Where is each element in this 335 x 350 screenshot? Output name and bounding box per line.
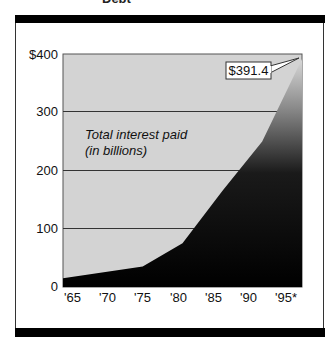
- chart-annotation-line1: Total interest paid: [85, 127, 188, 142]
- svg-text:'85: '85: [205, 290, 222, 305]
- svg-text:'75: '75: [134, 290, 151, 305]
- svg-text:200: 200: [36, 163, 58, 178]
- chart-annotation-line2: (in billions): [85, 143, 147, 158]
- svg-text:$400: $400: [29, 47, 58, 62]
- svg-text:'90: '90: [240, 290, 257, 305]
- svg-text:'80: '80: [170, 290, 187, 305]
- svg-text:0: 0: [51, 279, 58, 294]
- svg-text:'95*: '95*: [275, 290, 297, 305]
- svg-text:300: 300: [36, 104, 58, 119]
- svg-text:100: 100: [36, 221, 58, 236]
- svg-text:'70: '70: [99, 290, 116, 305]
- area-chart: $400 300 200 100 0 '65 '70 '75 '80 '85 '…: [0, 0, 335, 350]
- x-axis-labels: '65 '70 '75 '80 '85 '90 '95*: [64, 290, 297, 305]
- svg-text:$391.4: $391.4: [229, 63, 269, 78]
- y-axis-labels: $400 300 200 100 0: [29, 47, 58, 294]
- svg-text:'65: '65: [64, 290, 81, 305]
